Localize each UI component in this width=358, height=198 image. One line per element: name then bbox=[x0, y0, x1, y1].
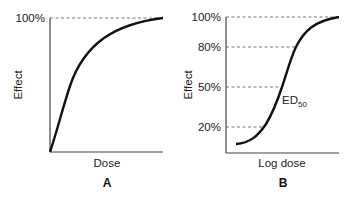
y-tick-100: 100% bbox=[192, 11, 221, 23]
panel-label-b: B bbox=[279, 176, 288, 190]
ed50-annotation: ED50 bbox=[282, 94, 307, 109]
panel-a: 100% Effect Dose A bbox=[12, 12, 163, 190]
y-axis-label: Effect bbox=[182, 70, 194, 100]
y-axis-label: Effect bbox=[12, 70, 24, 100]
y-tick-20: 20% bbox=[198, 121, 221, 133]
figure: 100% Effect Dose A 100% 80% 50% 20% Effe… bbox=[0, 0, 358, 198]
x-axis-label: Log dose bbox=[258, 157, 305, 169]
x-axis-label: Dose bbox=[94, 157, 121, 169]
panel-b: 100% 80% 50% 20% Effect Log dose ED50 B bbox=[182, 11, 339, 190]
panel-label-a: A bbox=[103, 176, 112, 190]
y-tick-100: 100% bbox=[16, 12, 45, 24]
y-tick-50: 50% bbox=[198, 81, 221, 93]
log-dose-response-curve bbox=[236, 17, 339, 144]
y-tick-80: 80% bbox=[198, 41, 221, 53]
dose-response-curve bbox=[50, 18, 163, 152]
